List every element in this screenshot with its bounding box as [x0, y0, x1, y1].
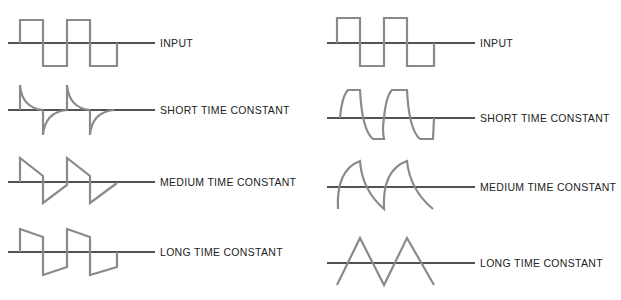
right-input-wave: [337, 18, 434, 66]
right-long-wave: [337, 238, 434, 285]
right-label-input: INPUT: [480, 37, 513, 49]
right-label-short: SHORT TIME CONSTANT: [480, 112, 610, 124]
left-label-input: INPUT: [160, 37, 193, 49]
right-label-medium: MEDIUM TIME CONSTANT: [480, 181, 616, 193]
right-short-wave: [340, 90, 434, 139]
left-label-medium: MEDIUM TIME CONSTANT: [160, 176, 296, 188]
left-label-short: SHORT TIME CONSTANT: [160, 104, 290, 116]
right-label-long: LONG TIME CONSTANT: [480, 257, 603, 269]
right-medium-wave: [338, 161, 433, 209]
left-medium-wave: [20, 158, 117, 203]
left-label-long: LONG TIME CONSTANT: [160, 246, 283, 258]
waveform-diagram: [0, 0, 621, 300]
